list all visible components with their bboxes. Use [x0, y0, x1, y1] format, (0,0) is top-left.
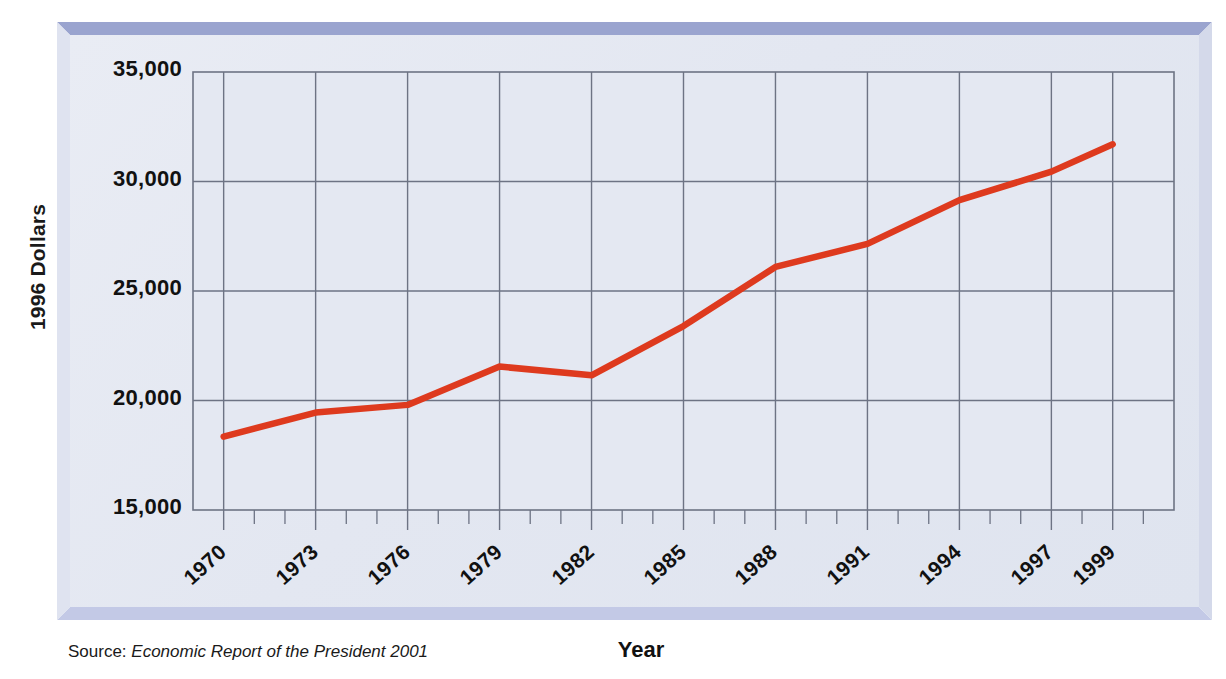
- x-tick-label: 1970: [179, 539, 231, 589]
- x-tick-label: 1982: [547, 539, 599, 589]
- x-tick-label: 1999: [1068, 539, 1120, 589]
- x-tick-label: 1997: [1006, 539, 1058, 589]
- x-tick-label: 1988: [730, 539, 782, 589]
- x-tick-label: 1994: [914, 539, 966, 589]
- x-axis-title-text: Year: [618, 637, 665, 662]
- x-tick-label: 1991: [822, 539, 874, 589]
- x-tick-label: 1985: [639, 539, 691, 589]
- x-axis-tick-labels: 1970197319761979198219851988199119941997…: [0, 0, 1226, 679]
- source-prefix: Source:: [68, 642, 127, 661]
- source-note: Source: Economic Report of the President…: [68, 642, 428, 662]
- x-tick-label: 1979: [455, 539, 507, 589]
- x-tick-label: 1976: [363, 539, 415, 589]
- source-publication-title: Economic Report of the President 2001: [131, 642, 428, 661]
- x-tick-label: 1973: [271, 539, 323, 589]
